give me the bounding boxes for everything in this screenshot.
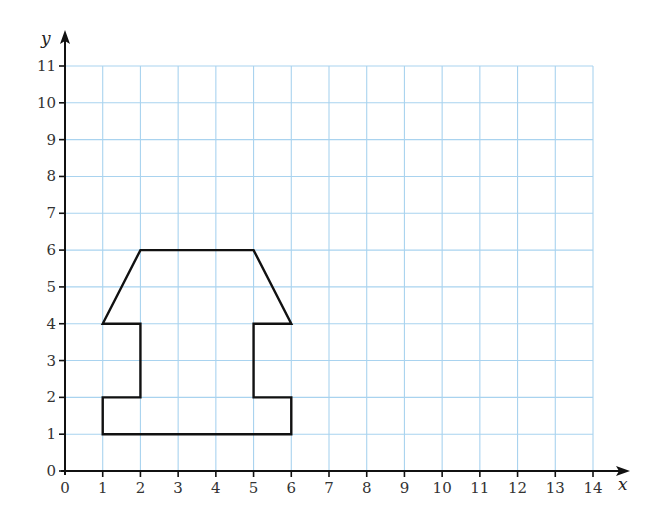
y-tick-label: 6 (46, 241, 56, 259)
x-tick-label: 3 (173, 479, 183, 497)
y-tick-label: 9 (46, 131, 56, 149)
y-tick-label: 0 (46, 462, 56, 480)
x-tick-label: 9 (400, 479, 410, 497)
x-tick-label: 11 (470, 479, 489, 497)
x-tick-label: 12 (508, 479, 527, 497)
x-tick-label: 10 (433, 479, 452, 497)
y-tick-label: 1 (46, 425, 56, 443)
y-tick-label: 10 (37, 94, 56, 112)
x-tick-label: 13 (546, 479, 565, 497)
grid-lines (65, 66, 593, 471)
x-tick-label: 6 (287, 479, 297, 497)
y-tick-label: 11 (37, 57, 56, 75)
axes (60, 30, 630, 476)
x-tick-label: 5 (249, 479, 259, 497)
x-tick-label: 8 (362, 479, 372, 497)
y-tick-label: 8 (46, 167, 56, 185)
y-tick-label: 2 (46, 388, 56, 406)
y-axis-label: y (40, 28, 51, 48)
polygon-shape (103, 250, 292, 434)
x-tick-label: 1 (98, 479, 108, 497)
y-tick-label: 3 (46, 352, 56, 370)
coordinate-grid-chart: 0123456789101112131401234567891011 x y (0, 0, 667, 517)
x-axis-label: x (618, 474, 628, 494)
x-tick-label: 0 (60, 479, 70, 497)
x-tick-label: 7 (324, 479, 334, 497)
y-tick-label: 4 (46, 315, 56, 333)
x-tick-label: 2 (136, 479, 146, 497)
y-tick-label: 7 (46, 204, 56, 222)
y-tick-label: 5 (46, 278, 56, 296)
x-tick-label: 4 (211, 479, 221, 497)
x-tick-label: 14 (583, 479, 602, 497)
